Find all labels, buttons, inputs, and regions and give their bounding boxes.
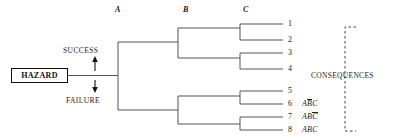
hazard-label: HAZARD bbox=[21, 71, 57, 80]
column-header-b: B bbox=[183, 5, 189, 14]
outcome-expression-6: ABC bbox=[302, 99, 318, 108]
expr-8-pre: ABC bbox=[302, 125, 318, 134]
outcome-number-5: 5 bbox=[288, 86, 292, 95]
outcome-number-1: 1 bbox=[288, 19, 292, 28]
outcome-number-2: 2 bbox=[288, 35, 292, 44]
outcome-number-6: 6 bbox=[288, 99, 292, 108]
outcome-number-7: 7 bbox=[288, 112, 292, 121]
expr-6-post: C bbox=[312, 99, 318, 108]
expr-7-pre: AB bbox=[302, 112, 312, 121]
column-header-c: C bbox=[243, 5, 249, 14]
outcome-number-3: 3 bbox=[288, 48, 292, 57]
outcome-expression-7: ABC bbox=[302, 112, 318, 121]
event-tree-diagram: A B C HAZARD SUCCESS FAILURE 1 2 3 4 5 6… bbox=[0, 0, 394, 140]
consequences-label: CONSEQUENCES bbox=[311, 71, 374, 80]
expr-7-bar: C bbox=[312, 112, 318, 121]
hazard-box: HAZARD bbox=[11, 68, 68, 83]
column-header-a: A bbox=[115, 5, 121, 14]
outcome-number-8: 8 bbox=[288, 125, 292, 134]
success-label: SUCCESS bbox=[63, 46, 98, 55]
outcome-expression-8: ABC bbox=[302, 125, 318, 134]
outcome-number-4: 4 bbox=[288, 64, 292, 73]
failure-label: FAILURE bbox=[66, 96, 100, 105]
